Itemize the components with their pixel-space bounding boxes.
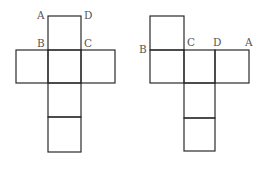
right-label-b: B	[139, 43, 147, 55]
right-label-a: A	[244, 36, 253, 48]
left-net-top-face	[48, 16, 81, 50]
cube-nets-diagram: A D B C B C D A	[0, 0, 264, 171]
right-net-center-face	[184, 50, 215, 83]
left-net: A D B C	[16, 9, 115, 152]
right-label-c: C	[187, 36, 195, 48]
right-net-bottom-face	[184, 118, 215, 151]
left-net-center-face	[48, 50, 81, 83]
right-net-lower-face	[184, 83, 215, 118]
right-label-d: D	[213, 36, 221, 48]
right-net: B C D A	[139, 16, 253, 151]
left-net-left-face	[16, 50, 48, 83]
left-label-a: A	[36, 9, 45, 21]
left-net-right-face	[81, 50, 115, 83]
right-net-right-face	[215, 50, 249, 83]
left-label-c: C	[84, 37, 92, 49]
left-label-d: D	[84, 9, 92, 21]
right-net-top-face	[150, 16, 184, 50]
left-net-bottom-face	[48, 117, 81, 152]
left-label-b: B	[37, 37, 45, 49]
left-net-lower-face	[48, 83, 81, 117]
right-net-left-face	[150, 50, 184, 83]
